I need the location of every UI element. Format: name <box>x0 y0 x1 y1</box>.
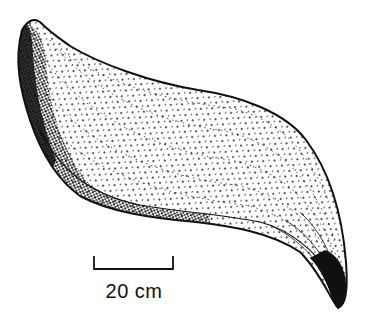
specimen-illustration <box>0 0 369 328</box>
scale-bar-label: 20 cm <box>94 280 174 303</box>
scale-bar <box>93 256 174 271</box>
